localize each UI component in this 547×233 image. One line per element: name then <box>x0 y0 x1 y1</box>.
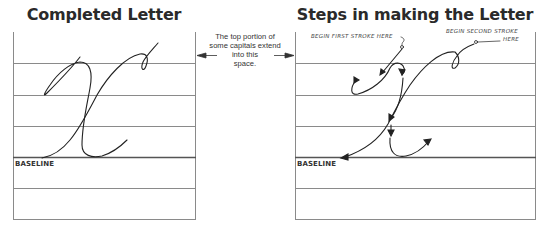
first-stroke-start-marker <box>401 46 404 49</box>
left-ruled-box <box>13 32 196 220</box>
baseline-label-right: BASELINE <box>297 160 336 168</box>
steps-title: Steps in making the Letter <box>295 5 535 24</box>
middle-note-line-2: some capitals extend <box>200 41 290 50</box>
completed-letter-title: Completed Letter <box>13 5 195 24</box>
second-stroke-start-marker <box>475 41 478 44</box>
steps-letter-x <box>341 37 500 160</box>
baseline-label-left: BASELINE <box>15 160 54 168</box>
first-stroke-annotation: BEGIN FIRST STROKE HERE <box>311 33 393 39</box>
second-stroke-annotation-line-2: HERE <box>503 36 519 42</box>
completed-letter-x <box>42 43 158 158</box>
second-stroke-annotation-line-1: BEGIN SECOND STROKE <box>446 28 518 34</box>
middle-note-line-3: into this space. <box>220 50 270 68</box>
right-ruled-box <box>295 32 536 220</box>
middle-note-line-1: The top portion of <box>200 32 290 41</box>
